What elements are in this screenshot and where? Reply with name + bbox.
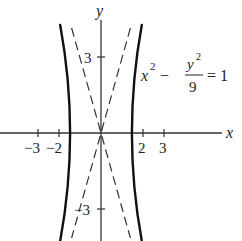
- x-tick-label: 3: [159, 140, 167, 156]
- svg-text:2: 2: [196, 51, 201, 62]
- svg-text:9: 9: [189, 79, 197, 95]
- svg-text:−: −: [160, 67, 169, 84]
- x-tick-label: 2: [138, 140, 146, 156]
- svg-text:y: y: [185, 56, 194, 72]
- y-tick-label: −3: [74, 202, 90, 218]
- svg-text:2: 2: [150, 60, 156, 72]
- x-tick-label: −3: [24, 140, 40, 156]
- equation-label: x 2 − y 2 9 = 1: [140, 51, 228, 95]
- svg-text:x: x: [140, 67, 148, 84]
- hyperbola-graph: x y −3 −2 2 3 3 −3 x 2 − y 2 9 = 1: [0, 0, 242, 241]
- y-tick-label: 3: [84, 50, 92, 66]
- y-axis-label: y: [94, 2, 104, 20]
- svg-text:= 1: = 1: [207, 67, 228, 84]
- x-tick-label: −2: [46, 140, 62, 156]
- x-axis-label: x: [225, 124, 233, 141]
